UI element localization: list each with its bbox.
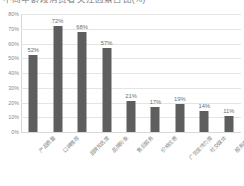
bar-slot: 57% [94, 14, 118, 132]
y-axis-tick-label: 60% [0, 41, 19, 47]
bar-value-label: 19% [174, 96, 186, 103]
gridline [21, 132, 241, 133]
bar-value-label: 52% [27, 47, 39, 54]
bar[interactable] [200, 111, 209, 132]
x-axis-category-slot: 售后服务 [119, 134, 143, 186]
bar-value-label: 68% [76, 24, 88, 31]
bar-slot: 21% [119, 14, 143, 132]
x-axis-category-slot: 品牌形象 [94, 134, 118, 186]
bar-slot: 68% [70, 14, 94, 132]
bar-value-label: 21% [125, 93, 137, 100]
bar-chart: 不同年龄段消费者关注因素占比(%) 80%70%60%50%40%30%20%1… [0, 0, 244, 186]
bar-slot: 11% [217, 14, 241, 132]
y-axis-tick-label: 0% [0, 129, 19, 135]
bar-value-label: 11% [223, 108, 234, 115]
y-axis-tick-label: 10% [0, 114, 19, 120]
bar-value-label: 14% [199, 103, 211, 110]
x-axis-category-slot: 价格优惠 [143, 134, 167, 186]
y-axis-tick-label: 40% [0, 70, 19, 76]
y-axis-tick-label: 80% [0, 11, 19, 17]
x-axis-category-label: 服务态度 [233, 135, 244, 153]
bar-value-label: 57% [101, 40, 113, 47]
bar[interactable] [175, 104, 184, 132]
y-axis-tick-label: 70% [0, 26, 19, 32]
y-axis: 80%70%60%50%40%30%20%10%0% [0, 14, 21, 132]
x-axis-category-slot: 产品质量 [21, 134, 45, 186]
bar[interactable] [224, 116, 233, 132]
y-axis-tick-label: 50% [0, 55, 19, 61]
bar-slot: 17% [143, 14, 167, 132]
bar[interactable] [53, 26, 62, 132]
x-axis-category-slot: 品牌知名度 [70, 134, 94, 186]
bar[interactable] [29, 55, 38, 132]
plot-area: 52%72%68%57%21%17%19%14%11% [21, 14, 241, 132]
bar-slot: 14% [192, 14, 216, 132]
bar-value-label: 17% [150, 99, 162, 106]
bar-slot: 52% [21, 14, 45, 132]
x-axis-category-slot: 服务态度 [217, 134, 241, 186]
bar[interactable] [102, 48, 111, 132]
bar-slot: 19% [168, 14, 192, 132]
x-axis: 产品质量口碑推荐品牌知名度品牌形象售后服务价格优惠广告宣传力度社交媒体服务态度 [21, 134, 241, 186]
bar[interactable] [126, 101, 135, 132]
chart-title: 不同年龄段消费者关注因素占比(%) [3, 0, 241, 5]
x-axis-category-slot: 口碑推荐 [45, 134, 69, 186]
y-axis-tick-label: 20% [0, 100, 19, 106]
bar[interactable] [151, 107, 160, 132]
bar-value-label: 72% [52, 18, 64, 25]
bar-slot: 72% [45, 14, 69, 132]
bar[interactable] [78, 32, 87, 132]
x-axis-category-slot: 社交媒体 [192, 134, 216, 186]
y-axis-tick-label: 30% [0, 85, 19, 91]
x-axis-category-slot: 广告宣传力度 [168, 134, 192, 186]
